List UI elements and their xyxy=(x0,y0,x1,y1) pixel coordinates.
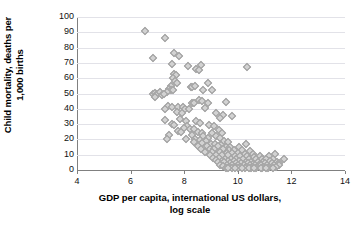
x-axis-tick-mark xyxy=(184,171,185,174)
data-point xyxy=(221,98,229,106)
y-axis-tick-label: 50 xyxy=(50,89,74,98)
x-axis-tick-label: 14 xyxy=(330,176,358,186)
y-axis-tick-label: 80 xyxy=(50,43,74,52)
y-axis-tick-label: 20 xyxy=(50,134,74,143)
x-axis-tick-label: 4 xyxy=(62,176,92,186)
x-axis-tick-label: 12 xyxy=(276,176,306,186)
y-axis-tick-label: 40 xyxy=(50,104,74,113)
gridline xyxy=(77,109,345,110)
x-axis-title-line-2: log scale xyxy=(40,204,340,216)
x-axis-tick-mark xyxy=(238,171,239,174)
y-axis-tick-label: 10 xyxy=(50,150,74,159)
data-point xyxy=(196,118,204,126)
x-axis-title: GDP per capita, international US dollars… xyxy=(40,192,340,216)
x-axis-tick-label: 6 xyxy=(116,176,146,186)
y-axis-tick-label: 70 xyxy=(50,58,74,67)
gridline xyxy=(77,63,345,64)
gridline xyxy=(77,32,345,33)
data-point xyxy=(149,53,157,61)
y-axis-tick-label: 100 xyxy=(50,12,74,21)
x-axis-tick-mark xyxy=(345,171,346,174)
y-axis-tick-label: 60 xyxy=(50,73,74,82)
y-axis-tick-label: 0 xyxy=(50,165,74,174)
x-axis-tick-label: 10 xyxy=(223,176,253,186)
data-point xyxy=(228,111,236,119)
data-point xyxy=(161,34,169,42)
y-axis-title-line-1: Child mortality, deaths per xyxy=(2,0,14,160)
y-axis-tick-label: 30 xyxy=(50,119,74,128)
y-axis-title: Child mortality, deaths per 1,000 births xyxy=(2,0,42,160)
data-point xyxy=(175,52,183,60)
gridline xyxy=(77,78,345,79)
x-axis-tick-mark xyxy=(291,171,292,174)
gridline xyxy=(77,48,345,49)
x-axis-tick-label: 8 xyxy=(169,176,199,186)
x-axis-line xyxy=(77,170,345,171)
data-point xyxy=(168,60,176,68)
x-axis-tick-mark xyxy=(77,171,78,174)
plot-area xyxy=(77,17,345,170)
y-axis-title-line-2: 1,000 births xyxy=(14,0,26,160)
y-axis-tick-label: 90 xyxy=(50,27,74,36)
data-point xyxy=(141,27,149,35)
gridline xyxy=(77,17,345,18)
x-axis-tick-mark xyxy=(131,171,132,174)
x-axis-title-line-1: GDP per capita, international US dollars… xyxy=(40,192,340,204)
scatter-chart: Child mortality, deaths per 1,000 births… xyxy=(0,0,358,230)
